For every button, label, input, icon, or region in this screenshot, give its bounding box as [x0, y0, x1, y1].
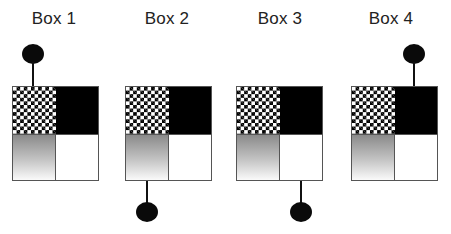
box-1 [12, 86, 99, 181]
box-2-label: Box 2 [145, 9, 189, 29]
box-4-black-quadrant [395, 87, 438, 134]
box-2-checker-quadrant [126, 87, 169, 134]
box-3-checker-quadrant [237, 87, 280, 134]
box-4-label: Box 4 [369, 9, 413, 29]
box-2 [125, 86, 212, 181]
box-3-gradient-quadrant [237, 134, 280, 181]
box-3-label: Box 3 [258, 9, 302, 29]
box-1-black-quadrant [56, 87, 99, 134]
box-4 [351, 86, 438, 181]
box-3-knob [290, 202, 312, 222]
box-4-white-quadrant [395, 134, 438, 181]
box-1-knob [22, 44, 44, 64]
box-1-white-quadrant [56, 134, 99, 181]
box-3 [236, 86, 323, 181]
box-2-black-quadrant [169, 87, 212, 134]
box-1-label: Box 1 [32, 9, 76, 29]
box-1-gradient-quadrant [13, 134, 56, 181]
box-2-knob [136, 202, 158, 222]
box-4-checker-quadrant [352, 87, 395, 134]
box-4-gradient-quadrant [352, 134, 395, 181]
box-1-checker-quadrant [13, 87, 56, 134]
box-4-knob [403, 44, 425, 64]
box-3-black-quadrant [280, 87, 323, 134]
box-2-white-quadrant [169, 134, 212, 181]
box-1-stem [32, 62, 34, 86]
box-3-white-quadrant [280, 134, 323, 181]
box-4-stem [413, 62, 415, 86]
box-2-gradient-quadrant [126, 134, 169, 181]
